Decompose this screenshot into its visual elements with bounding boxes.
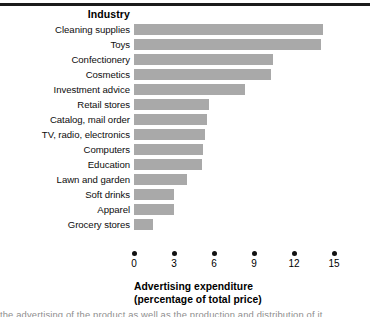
bar	[134, 69, 271, 80]
x-axis-tick-dot	[332, 251, 337, 256]
category-label: Cosmetics	[0, 68, 130, 81]
x-axis-tick-dot	[292, 251, 297, 256]
category-label: Lawn and garden	[0, 173, 130, 186]
bar	[134, 129, 205, 140]
x-axis-tick-dot	[132, 251, 137, 256]
bar-row: Investment advice	[0, 83, 370, 98]
bar	[134, 39, 321, 50]
bar-row: Retail stores	[0, 98, 370, 113]
x-axis-tick-label: 6	[199, 258, 229, 269]
top-divider-rule	[0, 3, 370, 6]
bar	[134, 54, 273, 65]
figure-page: Industry Cleaning suppliesToysConfection…	[0, 0, 370, 317]
x-axis-tick-label: 9	[239, 258, 269, 269]
category-axis-title: Industry	[0, 8, 130, 20]
bar	[134, 144, 203, 155]
bar-row: TV, radio, electronics	[0, 128, 370, 143]
bar-row: Computers	[0, 143, 370, 158]
clipped-body-text-line: the advertising of the product as well a…	[0, 309, 370, 317]
bar-row: Lawn and garden	[0, 173, 370, 188]
bar	[134, 219, 153, 230]
category-label: TV, radio, electronics	[0, 128, 130, 141]
x-axis-tick-label: 15	[319, 258, 349, 269]
bar-chart-figure: Industry Cleaning suppliesToysConfection…	[0, 8, 370, 308]
category-label: Investment advice	[0, 83, 130, 96]
x-axis-tick-label: 3	[159, 258, 189, 269]
bar	[134, 24, 323, 35]
bar	[134, 204, 174, 215]
clipped-body-text: the advertising of the product as well a…	[0, 309, 370, 317]
category-label: Cleaning supplies	[0, 23, 130, 36]
category-label: Computers	[0, 143, 130, 156]
category-label: Retail stores	[0, 98, 130, 111]
x-axis-title-line2: (percentage of total price)	[134, 293, 364, 306]
bar	[134, 174, 187, 185]
category-label: Catalog, mail order	[0, 113, 130, 126]
x-axis-tick-label: 0	[119, 258, 149, 269]
bar	[134, 114, 207, 125]
x-axis-title-line1: Advertising expenditure	[134, 280, 364, 293]
bar	[134, 159, 202, 170]
bar-row: Cleaning supplies	[0, 23, 370, 38]
x-axis-tick-label: 12	[279, 258, 309, 269]
bar-row: Soft drinks	[0, 188, 370, 203]
category-label: Education	[0, 158, 130, 171]
category-label: Grocery stores	[0, 218, 130, 231]
bar	[134, 84, 245, 95]
bar-row: Confectionery	[0, 53, 370, 68]
category-label: Soft drinks	[0, 188, 130, 201]
bar	[134, 189, 174, 200]
category-label: Apparel	[0, 203, 130, 216]
bar-row: Toys	[0, 38, 370, 53]
category-label: Toys	[0, 38, 130, 51]
bar-row: Education	[0, 158, 370, 173]
x-axis-tick-dot	[252, 251, 257, 256]
plot-area: Cleaning suppliesToysConfectioneryCosmet…	[0, 23, 370, 248]
x-axis-title: Advertising expenditure (percentage of t…	[134, 280, 364, 306]
bar-row: Cosmetics	[0, 68, 370, 83]
bar-row: Grocery stores	[0, 218, 370, 233]
bar	[134, 99, 209, 110]
category-label: Confectionery	[0, 53, 130, 66]
x-axis: 03691215	[0, 251, 370, 277]
x-axis-tick-dot	[172, 251, 177, 256]
bar-row: Catalog, mail order	[0, 113, 370, 128]
bar-row: Apparel	[0, 203, 370, 218]
x-axis-tick-dot	[212, 251, 217, 256]
